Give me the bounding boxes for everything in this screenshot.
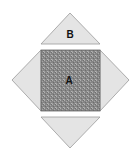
label-b: B [66, 29, 73, 40]
triangle-bottom [41, 117, 100, 148]
diagram-canvas: B A [0, 0, 140, 154]
label-a: A [65, 75, 72, 86]
triangle-left [12, 50, 41, 111]
triangle-right [100, 50, 129, 111]
